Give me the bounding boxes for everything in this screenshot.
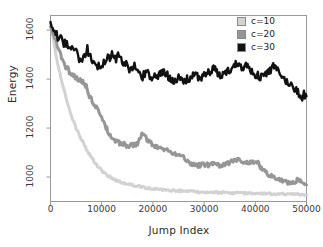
legend-label: c=10 bbox=[251, 17, 275, 26]
y-axis-label: Energy bbox=[6, 54, 18, 114]
chart-figure: Energy Jump Index 1000120014001600 01000… bbox=[0, 0, 323, 247]
chart-legend: c=10c=20c=30 bbox=[237, 16, 275, 53]
y-tick-label: 1600 bbox=[25, 12, 35, 46]
legend-item-c-20: c=20 bbox=[237, 29, 275, 40]
legend-item-c-30: c=30 bbox=[237, 42, 275, 53]
x-tick-label: 50000 bbox=[285, 204, 323, 214]
legend-label: c=30 bbox=[251, 43, 275, 52]
y-tick-label: 1200 bbox=[25, 110, 35, 144]
legend-swatch-icon bbox=[237, 17, 246, 26]
y-tick-label: 1400 bbox=[25, 61, 35, 95]
legend-item-c-10: c=10 bbox=[237, 16, 275, 27]
y-tick-label: 1000 bbox=[25, 159, 35, 193]
x-tick-label: 20000 bbox=[131, 204, 175, 214]
legend-swatch-icon bbox=[237, 30, 246, 39]
x-tick-label: 40000 bbox=[233, 204, 277, 214]
legend-label: c=20 bbox=[251, 30, 275, 39]
x-tick-label: 30000 bbox=[182, 204, 226, 214]
x-tick-label: 10000 bbox=[80, 204, 124, 214]
legend-swatch-icon bbox=[237, 43, 246, 52]
x-axis-label: Jump Index bbox=[50, 224, 308, 236]
x-tick-label: 0 bbox=[29, 204, 73, 214]
